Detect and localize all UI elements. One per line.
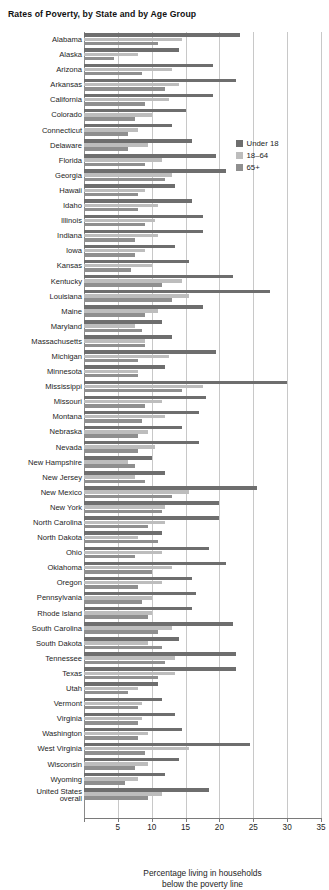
row-label-new-hampshire: New Hampshire xyxy=(0,455,82,470)
row-label-maryland: Maryland xyxy=(0,319,82,334)
bar-group xyxy=(84,305,321,317)
tickmark-15 xyxy=(186,819,187,822)
row-label-california: California xyxy=(0,92,82,107)
row-label-united-states-overall: United Statesoverall xyxy=(0,788,82,803)
bar-group xyxy=(84,441,321,453)
chart-row: Arkansas xyxy=(0,77,329,92)
bar-18-64 xyxy=(84,68,172,72)
chart-row: Kansas xyxy=(0,258,329,273)
bar-18-64 xyxy=(84,385,203,389)
bar-18-64 xyxy=(84,777,138,781)
row-label-massachusetts: Massachusetts xyxy=(0,334,82,349)
bar-18-64 xyxy=(84,581,162,585)
row-label-utah: Utah xyxy=(0,681,82,696)
bar-18-64 xyxy=(84,158,162,162)
legend-label: 65+ xyxy=(247,163,260,172)
bar-18-64 xyxy=(84,717,142,721)
tickmark-5 xyxy=(118,819,119,822)
bar-18-64 xyxy=(84,324,135,328)
bar-65- xyxy=(84,102,145,106)
row-label-new-york: New York xyxy=(0,500,82,515)
tick-label-30: 30 xyxy=(283,823,292,832)
bar-under-18 xyxy=(84,426,182,430)
row-label-idaho: Idaho xyxy=(0,198,82,213)
bar-65- xyxy=(84,344,145,348)
chart-row: Nebraska xyxy=(0,424,329,439)
bar-65- xyxy=(84,313,145,317)
row-label-montana: Montana xyxy=(0,409,82,424)
chart-row: Alaska xyxy=(0,47,329,62)
bar-18-64 xyxy=(84,505,165,509)
chart-row: Washington xyxy=(0,726,329,741)
page-title: Rates of Poverty, by State and by Age Gr… xyxy=(8,9,196,19)
bar-18-64 xyxy=(84,475,135,479)
bar-18-64 xyxy=(84,279,182,283)
bar-18-64 xyxy=(84,656,175,660)
bar-group xyxy=(84,547,321,559)
row-label-illinois: Illinois xyxy=(0,213,82,228)
tick-label-15: 15 xyxy=(181,823,190,832)
bar-under-18 xyxy=(84,33,240,37)
chart-row: California xyxy=(0,92,329,107)
chart-row: North Carolina xyxy=(0,515,329,530)
bar-group xyxy=(84,320,321,332)
chart-row: Michigan xyxy=(0,349,329,364)
row-label-georgia: Georgia xyxy=(0,168,82,183)
row-label-nebraska: Nebraska xyxy=(0,424,82,439)
bar-group xyxy=(84,48,321,60)
chart-row: Texas xyxy=(0,666,329,681)
x-axis-ticks: 5101520253035 xyxy=(84,819,321,835)
chart-row: Oregon xyxy=(0,575,329,590)
bar-under-18 xyxy=(84,441,199,445)
bar-65- xyxy=(84,329,142,333)
row-label-rhode-island: Rhode Island xyxy=(0,606,82,621)
x-axis-label-line1: Percentage living in households xyxy=(84,868,321,879)
bar-18-64 xyxy=(84,536,138,540)
bar-group xyxy=(84,199,321,211)
bar-under-18 xyxy=(84,471,165,475)
bar-group xyxy=(84,562,321,574)
bar-65- xyxy=(84,495,172,499)
bar-65- xyxy=(84,706,138,710)
row-label-minnesota: Minnesota xyxy=(0,364,82,379)
row-label-maine: Maine xyxy=(0,304,82,319)
bar-under-18 xyxy=(84,698,162,702)
bar-65- xyxy=(84,615,148,619)
row-label-delaware: Delaware xyxy=(0,138,82,153)
row-label-kansas: Kansas xyxy=(0,258,82,273)
bar-group xyxy=(84,64,321,76)
bar-group xyxy=(84,426,321,438)
bar-group xyxy=(84,622,321,634)
chart-row: New York xyxy=(0,500,329,515)
bar-18-64 xyxy=(84,762,148,766)
bar-18-64 xyxy=(84,83,179,87)
bar-18-64 xyxy=(84,792,162,796)
row-label-south-carolina: South Carolina xyxy=(0,621,82,636)
bar-65- xyxy=(84,434,138,438)
bar-under-18 xyxy=(84,381,287,385)
chart-row: New Mexico xyxy=(0,485,329,500)
bar-65- xyxy=(84,570,152,574)
x-axis-label: Percentage living in households below th… xyxy=(84,868,321,890)
chart-row: Vermont xyxy=(0,696,329,711)
bar-under-18 xyxy=(84,486,257,490)
bar-65- xyxy=(84,766,135,770)
bar-group xyxy=(84,381,321,393)
chart-row: Massachusetts xyxy=(0,334,329,349)
bar-65- xyxy=(84,751,145,755)
bar-group xyxy=(84,124,321,136)
bar-18-64 xyxy=(84,355,169,359)
chart-row: Louisiana xyxy=(0,289,329,304)
chart-row: South Dakota xyxy=(0,636,329,651)
row-label-connecticut: Connecticut xyxy=(0,123,82,138)
bar-under-18 xyxy=(84,622,233,626)
legend-swatch-icon xyxy=(236,164,243,171)
bar-under-18 xyxy=(84,320,162,324)
row-label-west-virginia: West Virginia xyxy=(0,741,82,756)
bar-18-64 xyxy=(84,173,172,177)
chart-row: Utah xyxy=(0,681,329,696)
bar-65- xyxy=(84,132,128,136)
bar-18-64 xyxy=(84,143,148,147)
bar-18-64 xyxy=(84,294,189,298)
bar-65- xyxy=(84,208,138,212)
